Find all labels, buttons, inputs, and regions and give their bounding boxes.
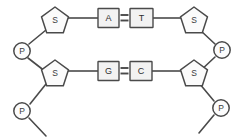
phosphate-right-bottom-label: P [218,103,224,113]
phosphate-right-middle: P [214,42,230,58]
sugar-bottom-right-label: S [191,68,197,78]
dna-diagram-canvas: S S S S P P P [0,0,245,139]
backbone-link-sugar-top-left-to-phosphate-left-middle [29,30,46,44]
base-a-label: A [105,13,111,23]
hydrogen-bond-bottom [121,68,129,74]
phosphate-right-middle-label: P [219,45,225,55]
base-t-label: T [139,13,145,23]
base-c: C [130,62,152,81]
backbone-open-end-lower-right [199,115,214,133]
hydrogen-bond-top [121,15,129,21]
base-g: G [98,62,119,81]
base-c-label: C [138,66,145,76]
backbone-link-sugar-bottom-left-to-phosphate-left-bottom [30,84,46,104]
base-t: T [130,9,153,28]
base-g-label: G [105,66,112,76]
sugar-bottom-left: S [42,60,69,86]
sugar-top-right-label: S [191,15,197,25]
phosphate-right-bottom: P [213,100,229,116]
sugar-top-right: S [181,7,208,33]
phosphate-left-bottom-label: P [19,106,25,116]
sugar-bottom-right: S [181,60,208,86]
sugar-bottom-left-label: S [52,68,58,78]
phosphate-left-middle: P [14,43,30,59]
base-a: A [98,9,119,28]
phosphate-left-bottom: P [14,103,30,119]
sugar-top-left-label: S [52,15,58,25]
dna-diagram: S S S S P P P [0,0,245,139]
backbone-open-end-lower-left [29,118,46,136]
sugar-top-left: S [42,7,69,33]
phosphate-left-middle-label: P [19,46,25,56]
